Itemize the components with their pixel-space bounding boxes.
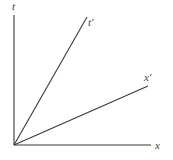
x-axis-label: x — [154, 139, 160, 151]
x-prime-axis-label: x′ — [143, 71, 152, 83]
spacetime-diagram: t x t′ x′ — [0, 0, 173, 160]
t-prime-axis-label: t′ — [88, 16, 94, 28]
t-prime-axis — [14, 17, 87, 145]
t-axis-label: t — [12, 0, 16, 12]
x-prime-axis — [14, 86, 148, 145]
